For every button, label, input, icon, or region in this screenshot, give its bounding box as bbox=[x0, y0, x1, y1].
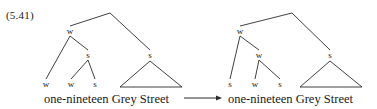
node-label-s: s bbox=[228, 80, 232, 89]
tree-edge bbox=[88, 60, 95, 79]
tree-edge bbox=[46, 36, 70, 79]
tree-edge bbox=[71, 60, 88, 79]
tree-edge bbox=[240, 13, 292, 26]
node-label-w: w bbox=[237, 27, 244, 36]
tree-edge bbox=[230, 36, 240, 79]
tree-edge bbox=[70, 13, 110, 26]
tree-edge bbox=[292, 13, 330, 50]
terminal-string: one-nineteen Grey Street bbox=[44, 93, 169, 106]
node-label-s: s bbox=[328, 51, 332, 60]
node-label-w: w bbox=[67, 27, 74, 36]
metrical-tree-figure: (5.41) wsswwsone-nineteen Grey Streetwsw… bbox=[0, 0, 377, 109]
constituent-triangle bbox=[300, 61, 362, 87]
node-label-s: s bbox=[148, 51, 152, 60]
tree-edge bbox=[259, 60, 280, 79]
tree-edge bbox=[110, 13, 150, 50]
node-label-w: w bbox=[252, 80, 259, 89]
node-label-s: s bbox=[86, 51, 90, 60]
node-label-s: s bbox=[278, 80, 282, 89]
tree-edge bbox=[255, 60, 259, 79]
edge-group bbox=[46, 13, 330, 79]
arrow-head bbox=[216, 95, 222, 100]
triangle-group bbox=[120, 61, 362, 87]
node-label-w: w bbox=[43, 80, 50, 89]
tree-edge bbox=[70, 36, 88, 50]
terminal-string: one-nineteen Grey Street bbox=[228, 93, 353, 106]
node-label-s: s bbox=[93, 80, 97, 89]
tree-edge bbox=[240, 36, 259, 50]
node-label-w: w bbox=[68, 80, 75, 89]
constituent-triangle bbox=[120, 61, 182, 87]
transformation-arrow bbox=[184, 95, 222, 100]
node-label-w: w bbox=[256, 51, 263, 60]
